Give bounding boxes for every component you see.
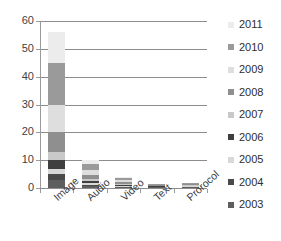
legend-item-2003[interactable]: 2003 [228,198,263,211]
bar-segment-2008[interactable] [48,132,65,151]
legend-swatch-icon [228,112,234,118]
y-axis-tick-label: 40 [8,71,34,82]
bar-image[interactable] [48,32,65,188]
legend-item-2005[interactable]: 2005 [228,153,263,166]
legend-item-2011[interactable]: 2011 [228,18,263,31]
legend-label: 2010 [239,42,263,53]
y-axis-tick-label: 0 [8,182,34,193]
bar-segment-2007[interactable] [48,152,65,160]
legend-item-2010[interactable]: 2010 [228,41,263,54]
legend-item-2004[interactable]: 2004 [228,176,263,189]
legend-swatch-icon [228,157,234,163]
legend-label: 2003 [239,199,263,210]
legend-label: 2004 [239,177,263,188]
y-axis-tick-label: 20 [8,126,34,137]
legend-swatch-icon [228,179,234,185]
chart-legend: 201120102009200820072006200520042003 [228,18,281,223]
legend-item-2006[interactable]: 2006 [228,131,263,144]
legend-swatch-icon [228,44,234,50]
bar-segment-2010[interactable] [48,63,65,105]
y-axis-tick-label: 50 [8,43,34,54]
bar-segment-2006[interactable] [48,160,65,168]
stacked-bar-chart: 6050403020100 ImageAudioVideoTextProroco… [0,0,281,241]
legend-swatch-icon [228,22,234,28]
legend-swatch-icon [228,89,234,95]
legend-swatch-icon [228,134,234,140]
legend-item-2009[interactable]: 2009 [228,63,263,76]
y-axis-tick-label: 30 [8,99,34,110]
legend-label: 2008 [239,87,263,98]
legend-label: 2006 [239,132,263,143]
legend-label: 2009 [239,64,263,75]
y-axis-tick-label: 60 [8,15,34,26]
legend-swatch-icon [228,67,234,73]
x-axis-category-labels: ImageAudioVideoTextProrocol [40,190,207,241]
x-axis-tick [207,189,208,193]
plot-area [40,21,207,188]
legend-label: 2007 [239,109,263,120]
bar-segment-2011[interactable] [48,32,65,63]
bar-segment-2009[interactable] [48,105,65,133]
legend-item-2008[interactable]: 2008 [228,86,263,99]
legend-swatch-icon [228,202,234,208]
legend-label: 2011 [239,19,263,30]
legend-label: 2005 [239,154,263,165]
legend-item-2007[interactable]: 2007 [228,108,263,121]
y-axis-tick-label: 10 [8,154,34,165]
